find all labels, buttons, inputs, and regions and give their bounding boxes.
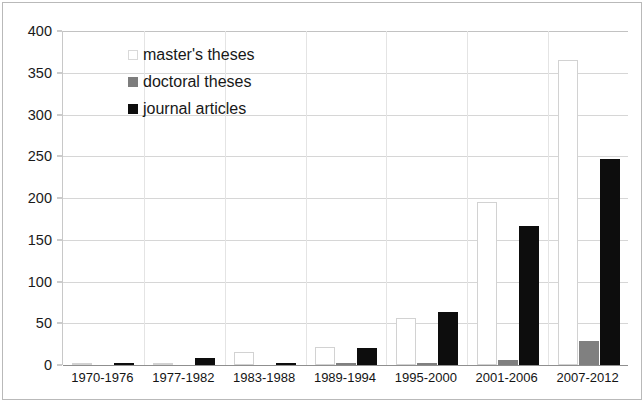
- y-axis-tick-label: 400: [0, 23, 52, 39]
- bar-masters: [72, 363, 92, 365]
- bar-journal: [276, 363, 296, 366]
- y-axis-tick-label: 250: [0, 148, 52, 164]
- bar-journal: [519, 226, 539, 365]
- x-axis-tick-label: 1970-1976: [71, 370, 133, 385]
- x-axis-tick-label: 1983-1988: [233, 370, 295, 385]
- category-separator: [548, 31, 549, 365]
- x-axis-tick-label: 1995-2000: [395, 370, 457, 385]
- legend-item: master's theses: [128, 44, 255, 66]
- y-axis-tick-label: 0: [0, 357, 52, 373]
- bar-group: [396, 31, 458, 365]
- category-separator: [467, 31, 468, 365]
- bar-journal: [195, 358, 215, 365]
- bar-masters: [315, 347, 335, 365]
- x-axis-tick-label: 2007-2012: [556, 370, 618, 385]
- y-axis-tick-label: 300: [0, 107, 52, 123]
- y-axis-tick-label: 100: [0, 274, 52, 290]
- bar-journal: [438, 312, 458, 365]
- x-axis: 1970-19761977-19821983-19881989-19941995…: [62, 370, 628, 396]
- legend-swatch-icon: [128, 77, 138, 87]
- bar-journal: [114, 363, 134, 366]
- category-separator: [306, 31, 307, 365]
- y-axis-tick-label: 150: [0, 232, 52, 248]
- legend-label: doctoral theses: [143, 74, 252, 90]
- bar-doctoral: [336, 363, 356, 365]
- bar-doctoral: [417, 363, 437, 366]
- chart-figure: 050100150200250300350400 1970-19761977-1…: [0, 0, 644, 402]
- bar-journal: [600, 159, 620, 365]
- bar-group: [558, 31, 620, 365]
- gridline: [63, 365, 628, 366]
- bar-group: [477, 31, 539, 365]
- bar-masters: [153, 363, 173, 365]
- category-separator: [386, 31, 387, 365]
- bar-masters: [477, 202, 497, 365]
- bar-masters: [396, 318, 416, 365]
- y-axis-tick-label: 50: [0, 315, 52, 331]
- y-axis-tick-label: 200: [0, 190, 52, 206]
- legend-swatch-icon: [128, 104, 138, 114]
- bar-doctoral: [579, 341, 599, 365]
- y-axis-tick-label: 350: [0, 65, 52, 81]
- legend-label: master's theses: [143, 47, 255, 63]
- legend-item: journal articles: [128, 98, 255, 120]
- bar-masters: [558, 60, 578, 365]
- legend-item: doctoral theses: [128, 71, 255, 93]
- bar-doctoral: [498, 360, 518, 365]
- bar-group: [72, 31, 134, 365]
- x-axis-tick-label: 2001-2006: [476, 370, 538, 385]
- x-axis-tick-label: 1989-1994: [314, 370, 376, 385]
- legend-swatch-icon: [128, 50, 138, 60]
- legend-label: journal articles: [143, 101, 246, 117]
- bar-masters: [234, 352, 254, 365]
- bar-group: [315, 31, 377, 365]
- chart-legend: master's thesesdoctoral thesesjournal ar…: [128, 44, 255, 120]
- bar-journal: [357, 348, 377, 365]
- x-axis-tick-label: 1977-1982: [152, 370, 214, 385]
